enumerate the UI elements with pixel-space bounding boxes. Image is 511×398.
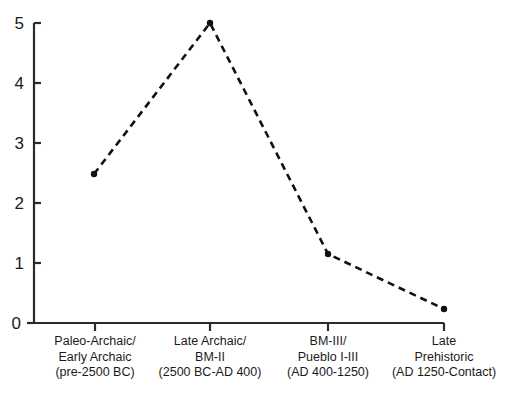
y-tick-label-5: 5 xyxy=(15,14,24,33)
x-axis-label-line-3: (AD 1250-Contact) xyxy=(375,365,511,381)
y-tick-label-2: 2 xyxy=(15,194,24,213)
data-series-line xyxy=(94,23,444,309)
x-axis-category-labels: Paleo-Archaic/ Early Archaic (pre-2500 B… xyxy=(0,332,511,396)
y-tick-label-0: 0 xyxy=(12,314,21,333)
chart-figure: 5 4 3 2 1 0 Paleo-Archaic/ Early Archaic xyxy=(0,0,511,398)
data-point-markers xyxy=(91,20,447,312)
x-axis-label-line-2: Prehistoric xyxy=(375,350,511,366)
y-tick-label-1: 1 xyxy=(15,254,24,273)
x-axis-label-line-1: Late xyxy=(375,334,511,350)
data-point-2 xyxy=(325,251,331,257)
data-point-0 xyxy=(91,171,97,177)
x-axis-ticks xyxy=(95,323,444,331)
y-tick-label-4: 4 xyxy=(15,74,24,93)
y-tick-label-3: 3 xyxy=(15,134,24,153)
data-point-3 xyxy=(441,306,447,312)
data-point-1 xyxy=(207,20,213,26)
x-axis-label-late-prehistoric: Late Prehistoric (AD 1250-Contact) xyxy=(375,334,511,381)
y-axis-tick-labels: 5 4 3 2 1 0 xyxy=(12,14,24,333)
